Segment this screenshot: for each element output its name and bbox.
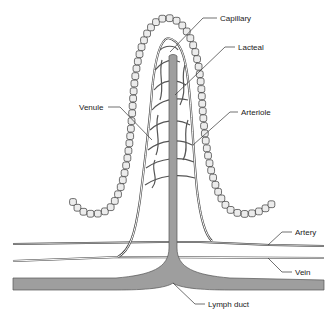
epithelial-cell <box>124 155 131 162</box>
epithelial-cell <box>144 30 151 37</box>
epithelial-cell <box>119 177 126 184</box>
epithelial-cell <box>206 160 213 167</box>
epithelial-cell <box>153 19 160 26</box>
epithelial-cell <box>166 15 173 22</box>
epithelial-cell <box>201 123 208 130</box>
epithelial-cell <box>123 162 130 169</box>
epithelial-cell <box>199 100 206 107</box>
lacteal <box>13 55 324 291</box>
epithelial-cell <box>187 35 194 42</box>
label-lacteal: Lacteal <box>238 43 264 52</box>
label-capillary: Capillary <box>220 14 251 23</box>
epithelial-cell <box>212 181 219 188</box>
epithelial-cell <box>202 137 209 144</box>
epithelial-cell <box>117 184 124 191</box>
label-vein: Vein <box>295 268 311 277</box>
epithelial-cell <box>80 208 87 215</box>
epithelial-cell <box>218 195 225 202</box>
epithelial-cell <box>131 80 138 87</box>
epithelial-cell <box>121 170 128 177</box>
epithelial-cell <box>227 207 234 214</box>
label-lymph-duct: Lymph duct <box>208 300 250 309</box>
epithelial-cell <box>195 63 202 70</box>
epithelial-cell <box>138 44 145 51</box>
epithelial-cell <box>127 133 134 140</box>
epithelial-cell <box>183 28 190 35</box>
artery <box>13 242 324 246</box>
epithelial-cell <box>208 167 215 174</box>
epithelial-cell <box>159 15 166 22</box>
epithelial-cell <box>249 210 256 217</box>
epithelial-cell <box>136 51 143 58</box>
epithelial-cell <box>203 145 210 152</box>
epithelial-cell <box>129 103 136 110</box>
vein-leader <box>268 258 292 272</box>
epithelial-cell <box>197 78 204 85</box>
epithelial-cell <box>198 86 205 93</box>
epithelial-cell <box>107 204 114 211</box>
epithelial-cell <box>215 188 222 195</box>
artery-leader <box>268 232 292 245</box>
epithelial-cell <box>194 56 201 63</box>
epithelial-cell <box>134 58 141 65</box>
epithelial-cell <box>141 37 148 44</box>
epithelial-cell <box>205 152 212 159</box>
epithelial-cell <box>115 191 122 198</box>
epithelial-cell <box>127 125 134 132</box>
epithelial-cell <box>199 108 206 115</box>
epithelial-cell <box>133 65 140 72</box>
epithelial-cell <box>241 211 248 218</box>
epithelial-cell <box>198 93 205 100</box>
label-arteriole: Arteriole <box>241 108 271 117</box>
epithelial-cell <box>192 49 199 56</box>
villus-diagram: Capillary Lacteal Venule Arteriole Arter… <box>0 0 331 322</box>
epithelial-cell <box>268 201 275 208</box>
epithelial-cell <box>201 130 208 137</box>
epithelial-cell <box>210 174 217 181</box>
epithelial-cell <box>129 110 136 117</box>
epithelial-cell <box>132 73 139 80</box>
epithelial-cell <box>130 88 137 95</box>
epithelial-cell <box>125 147 132 154</box>
epithelial-cell <box>87 210 94 217</box>
epithelial-cell <box>190 42 197 49</box>
epithelial-cell <box>196 71 203 78</box>
epithelial-cell <box>111 198 118 205</box>
epithelial-cell <box>94 210 101 217</box>
epithelial-cell <box>234 209 241 216</box>
epithelial-cell <box>256 208 263 215</box>
label-artery: Artery <box>295 228 316 237</box>
epithelial-cell <box>130 95 137 102</box>
epithelial-cell <box>126 140 133 147</box>
epithelial-cell <box>200 115 207 122</box>
label-venule: Venule <box>79 103 104 112</box>
